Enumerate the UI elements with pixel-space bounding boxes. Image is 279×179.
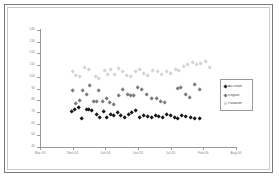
y-axis-tick-label: 120 — [0, 52, 35, 55]
y-axis-tick-label: 50 — [0, 134, 35, 137]
legend-marker-icon — [223, 93, 227, 97]
legend-item-label: Ak-cream — [228, 85, 242, 88]
y-axis-tick-label: 130 — [0, 40, 35, 43]
data-point — [97, 115, 102, 120]
chart-legend: Ak-creamRegularPaladium — [220, 79, 253, 111]
x-axis-tick-mark — [171, 147, 172, 150]
data-point — [80, 117, 85, 122]
legend-item-label: Paladium — [228, 102, 242, 105]
legend-item-label: Regular — [228, 94, 240, 97]
data-point — [134, 108, 139, 113]
data-point — [104, 115, 109, 120]
data-point — [101, 110, 106, 115]
x-axis-tick-label: Aug-06 — [231, 152, 242, 155]
x-axis-tick-mark — [203, 147, 204, 150]
data-point — [197, 117, 202, 122]
data-point — [160, 115, 165, 120]
y-axis-tick-label: 140 — [0, 28, 35, 31]
legend-item[interactable]: Ak-cream — [223, 83, 251, 92]
legend-marker-icon — [223, 102, 227, 106]
plot-area — [40, 30, 216, 147]
data-point — [122, 115, 127, 120]
y-axis-tick-label: 80 — [0, 98, 35, 101]
data-point — [90, 108, 95, 113]
y-axis-tick-label: 60 — [0, 122, 35, 125]
legend-item[interactable]: Regular — [223, 91, 251, 100]
x-axis-tick-label: Jan-05 — [133, 152, 143, 155]
data-point — [176, 117, 181, 122]
x-axis-tick-label: Jul-05 — [166, 152, 175, 155]
y-axis-tick-label: 90 — [0, 87, 35, 90]
scatter-chart: 140130120110100908070605040 Mar-03Nov-03… — [0, 0, 279, 179]
data-point — [192, 117, 197, 122]
y-axis-tick-label: 40 — [0, 145, 35, 148]
x-axis-tick-label: Mar-03 — [35, 152, 46, 155]
y-axis-tick-label: 100 — [0, 75, 35, 78]
series-paladium — [40, 30, 216, 147]
y-axis-tick-label: 70 — [0, 110, 35, 113]
x-axis-tick-label: Nov-03 — [67, 152, 78, 155]
data-point — [111, 113, 116, 118]
x-axis-tick-label: Feb-06 — [198, 152, 209, 155]
x-axis-tick-mark — [105, 147, 106, 150]
y-axis-tick-label: 110 — [0, 63, 35, 66]
x-axis-tick-mark — [73, 147, 74, 150]
x-axis-tick-mark — [40, 147, 41, 150]
x-axis-tick-mark — [236, 147, 237, 150]
legend-item[interactable]: Paladium — [223, 100, 251, 109]
x-axis-tick-label: Jun-04 — [100, 152, 110, 155]
legend-marker-icon — [223, 85, 227, 89]
x-axis-tick-mark — [138, 147, 139, 150]
